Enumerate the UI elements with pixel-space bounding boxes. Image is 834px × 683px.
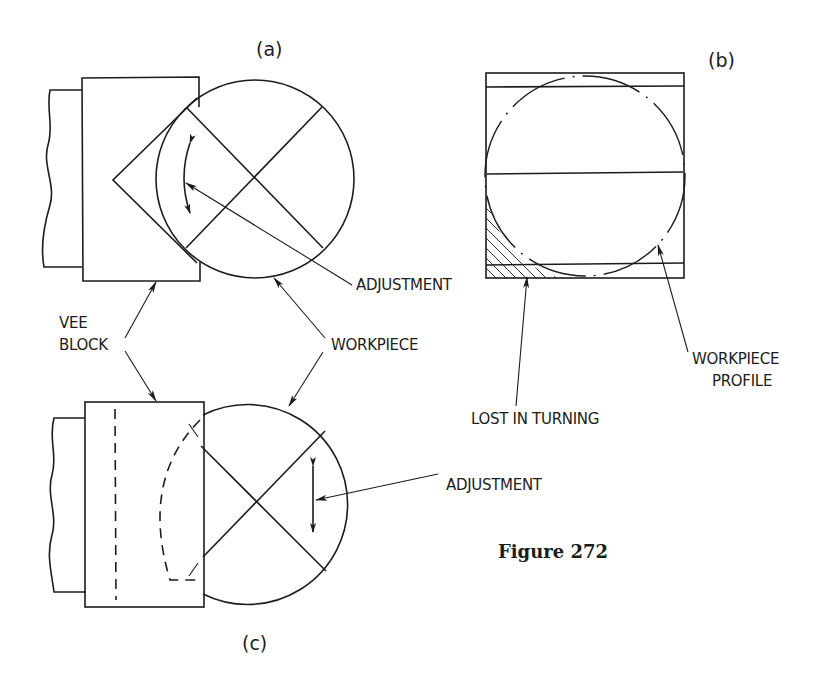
vee-block-leader-c — [125, 351, 156, 401]
panel-a-rotation-arrow-icon — [184, 143, 190, 213]
panel-b: (b) LOST IN TURNING WORKPIECE — [471, 49, 779, 428]
figure-272-diagram: (a) ADJUSTMENT VEE BLOCK WORKPIECE (b) — [0, 0, 834, 683]
workpiece-leader-a — [274, 278, 325, 338]
panel-c-hidden-line — [115, 409, 116, 600]
panel-a: (a) ADJUSTMENT — [42, 38, 452, 294]
panel-b-workpiece-profile-label-line1: WORKPIECE — [692, 350, 779, 368]
panel-c-hidden-arc — [160, 420, 200, 580]
panel-c-hidden-tick-bottom — [189, 563, 198, 576]
panel-b-centerline — [487, 172, 683, 174]
vee-block-label-line2: BLOCK — [59, 336, 109, 354]
panel-c-adjustment-leader — [316, 474, 438, 500]
workpiece-label: WORKPIECE — [331, 336, 418, 354]
panel-c-vee-block — [85, 402, 204, 607]
panel-b-label: (b) — [708, 49, 735, 71]
panel-b-workpiece-profile — [485, 76, 685, 276]
panel-a-label: (a) — [256, 38, 282, 60]
workpiece-leader-c — [289, 352, 323, 406]
shared-callouts: VEE BLOCK WORKPIECE — [59, 278, 418, 406]
panel-b-top-face — [486, 86, 684, 87]
panel-c-crossline-2 — [203, 431, 325, 557]
vee-block-label-line1: VEE — [59, 314, 87, 332]
panel-b-bottom-face — [486, 263, 684, 265]
panel-c: ADJUSTMENT (c) — [49, 402, 542, 654]
panel-c-workpiece — [203, 405, 348, 605]
panel-a-crossline-1 — [187, 108, 323, 248]
panel-c-label: (c) — [242, 632, 267, 654]
panel-c-rod — [49, 418, 86, 592]
panel-b-lost-material-hatch — [476, 168, 616, 288]
panel-b-workpiece-profile-label-line2: PROFILE — [712, 372, 772, 390]
panel-a-rod — [42, 90, 82, 267]
panel-b-lost-in-turning-label: LOST IN TURNING — [471, 410, 599, 428]
panel-a-adjustment-label: ADJUSTMENT — [356, 276, 453, 294]
panel-a-adjustment-leader — [186, 183, 352, 285]
vee-block-leader-a — [125, 282, 156, 338]
panel-a-vee-block — [82, 77, 200, 281]
figure-caption: Figure 272 — [498, 541, 608, 562]
panel-b-lost-in-turning-leader — [516, 277, 527, 406]
panel-c-crossline-1 — [201, 446, 326, 571]
panel-c-adjustment-label: ADJUSTMENT — [446, 476, 543, 494]
